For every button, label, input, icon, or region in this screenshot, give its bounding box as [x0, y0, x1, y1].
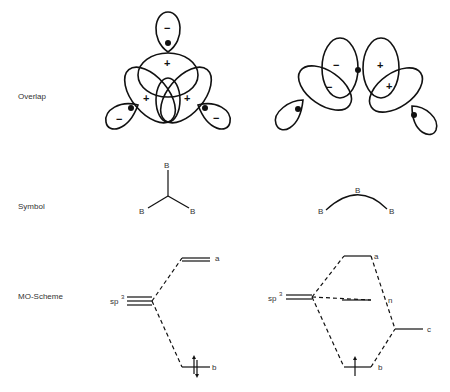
atom-b: B — [355, 186, 360, 195]
mo-scheme-closed — [127, 258, 210, 376]
sign-left: + — [143, 92, 149, 104]
ao-label: sp — [268, 294, 277, 303]
level-a: a — [215, 254, 220, 263]
ao-sup: 3 — [121, 294, 125, 300]
level-n: n — [388, 296, 392, 305]
sign-r4: + — [386, 80, 392, 92]
sign-r3: + — [377, 59, 383, 71]
level-b: b — [212, 363, 217, 372]
sign-r2: − — [326, 81, 332, 93]
atom-b: B — [190, 207, 195, 216]
symbol-open — [326, 195, 387, 210]
sign-center: + — [164, 57, 170, 69]
ao-sup: 3 — [279, 291, 283, 297]
sign-top: − — [164, 22, 170, 34]
overlap-open — [275, 38, 436, 135]
level-b: b — [378, 363, 383, 372]
atom-b: B — [164, 161, 169, 170]
sign-bl: − — [116, 113, 122, 125]
sign-r1: − — [333, 59, 339, 71]
sign-br: − — [213, 112, 219, 124]
symbol-closed — [148, 170, 189, 208]
level-c: c — [427, 325, 431, 334]
level-a: a — [374, 252, 379, 261]
ao-label: sp — [110, 297, 119, 306]
diagram-canvas: − + + + − − − − + + B B B B B B sp 3 a b… — [0, 0, 450, 392]
sign-right: + — [184, 92, 190, 104]
atom-b: B — [139, 207, 144, 216]
atom-b: B — [318, 207, 323, 216]
atom-b: B — [389, 207, 394, 216]
